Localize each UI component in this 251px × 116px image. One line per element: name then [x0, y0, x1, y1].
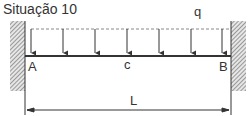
length-dimension — [25, 91, 231, 115]
left-fixed-support — [10, 21, 25, 91]
length-label: L — [130, 93, 137, 108]
load-label: q — [194, 4, 201, 19]
support-b-label: B — [219, 59, 228, 74]
midpoint-label: c — [124, 57, 131, 72]
right-fixed-support — [231, 21, 246, 91]
distributed-load-arrows — [31, 29, 222, 53]
support-a-label: A — [28, 59, 37, 74]
